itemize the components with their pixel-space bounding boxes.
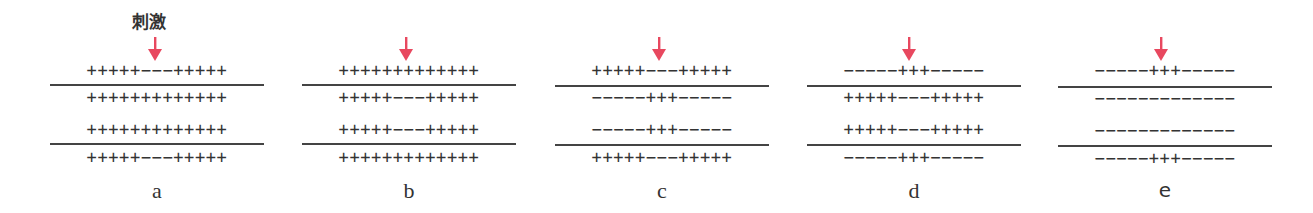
- charge-row-outer-top: −−−−−+++−−−−−: [1058, 60, 1272, 80]
- panel-label: b: [302, 178, 516, 204]
- panel-label: d: [807, 178, 1021, 204]
- charge-row-inner-bottom: +++++++++++++: [50, 119, 264, 139]
- charge-row-outer-bottom: −−−−−+++−−−−−: [807, 147, 1021, 167]
- charge-row-inner-bottom: −−−−−+++−−−−−: [555, 119, 769, 139]
- charge-row-inner-bottom: +++++−−−+++++: [807, 119, 1021, 139]
- panel-label: c: [555, 178, 769, 204]
- membrane-line-bottom: [1058, 145, 1272, 147]
- charge-row-inner-top: +++++−−−+++++: [807, 87, 1021, 107]
- stimulus-arrow-icon: [399, 37, 413, 61]
- charge-row-inner-top: −−−−−−−−−−−−−: [1058, 88, 1272, 108]
- panel-label: e: [1058, 178, 1272, 202]
- membrane-line-top: [302, 84, 516, 86]
- charge-row-outer-bottom: +++++++++++++: [302, 147, 516, 167]
- membrane-line-bottom: [555, 144, 769, 146]
- charge-row-inner-top: +++++++++++++: [50, 87, 264, 107]
- charge-row-outer-bottom: +++++−−−+++++: [555, 147, 769, 167]
- charge-row-outer-bottom: −−−−−+++−−−−−: [1058, 148, 1272, 168]
- charge-row-inner-top: −−−−−+++−−−−−: [555, 87, 769, 107]
- charge-row-outer-bottom: +++++−−−+++++: [50, 147, 264, 167]
- stimulus-arrow-icon: [652, 37, 666, 61]
- panel-label: a: [50, 178, 264, 204]
- membrane-line-bottom: [50, 143, 264, 145]
- panel-a: +++++−−−+++++ +++++++++++++ ++++++++++++…: [50, 0, 264, 213]
- membrane-line-top: [50, 84, 264, 86]
- charge-row-outer-top: +++++++++++++: [302, 60, 516, 80]
- membrane-line-bottom: [302, 143, 516, 145]
- charge-row-outer-top: −−−−−+++−−−−−: [807, 60, 1021, 80]
- panel-d: −−−−−+++−−−−− +++++−−−+++++ +++++−−−++++…: [807, 0, 1021, 213]
- charge-row-inner-top: +++++−−−+++++: [302, 87, 516, 107]
- panel-e: −−−−−+++−−−−− −−−−−−−−−−−−− −−−−−−−−−−−−…: [1058, 0, 1272, 213]
- charge-row-outer-top: +++++−−−+++++: [50, 60, 264, 80]
- charge-row-inner-bottom: −−−−−−−−−−−−−: [1058, 120, 1272, 140]
- charge-row-outer-top: +++++−−−+++++: [555, 60, 769, 80]
- membrane-line-bottom: [807, 144, 1021, 146]
- stimulus-arrow-icon: [902, 37, 916, 61]
- charge-row-inner-bottom: +++++−−−+++++: [302, 119, 516, 139]
- stimulus-arrow-icon: [1154, 37, 1168, 61]
- stimulus-arrow-icon: [148, 37, 162, 61]
- panel-c: +++++−−−+++++ −−−−−+++−−−−− −−−−−+++−−−−…: [555, 0, 769, 213]
- panel-b: +++++++++++++ +++++−−−+++++ +++++−−−++++…: [302, 0, 516, 213]
